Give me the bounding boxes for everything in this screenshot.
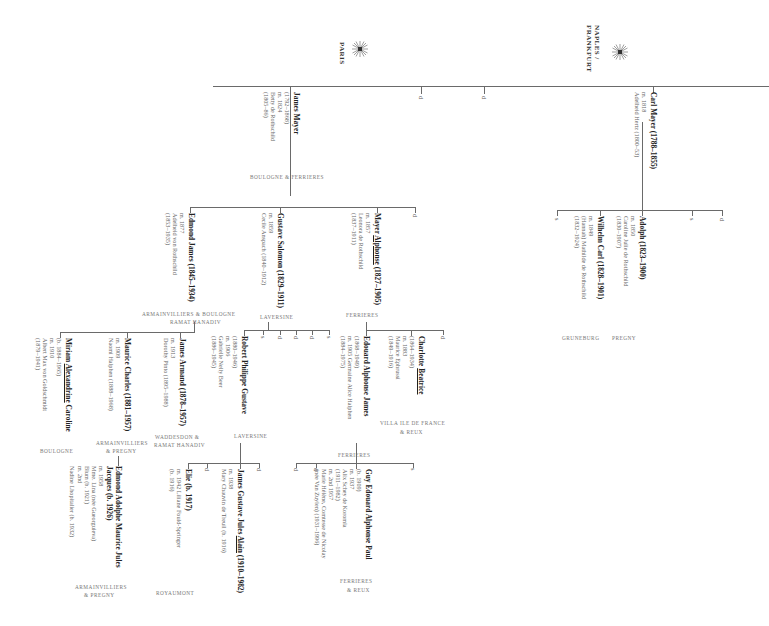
place-armainvilliers-boulogne: ARMAINVILLIERS & BOULOGNE xyxy=(142,311,235,317)
tick xyxy=(329,330,330,335)
person-james-mayer: James Mayer (1792–1868) m. 1824 Betty de… xyxy=(263,92,300,141)
generation-line xyxy=(366,330,444,331)
place-pregny: & PREGNY xyxy=(106,448,137,454)
person-edouard: Edouard Alphonse James (1868–1949) m. 19… xyxy=(340,336,370,419)
tick xyxy=(280,330,281,335)
person-mayer-alphonse: Mayer Alphonse (1827–1905) m. 1857 Leono… xyxy=(351,213,381,305)
tick xyxy=(557,210,558,216)
person-adolph: Adolph (1823–1900) m. 1850 Caroline Juli… xyxy=(616,216,646,286)
person-wilhelm: Wilhelm Carl (1828–1901) m. 1849 (Hannah… xyxy=(574,216,604,299)
generation-line xyxy=(244,330,330,331)
tick xyxy=(484,86,485,94)
place-laversine: LAVERSINE xyxy=(234,433,267,439)
sunburst-crest-icon xyxy=(612,44,628,60)
deceased-mark: d xyxy=(412,214,419,217)
son-mark: s xyxy=(326,336,333,339)
person-robert: Robert Philippe Gustave (1880–1946) m. 1… xyxy=(211,336,248,414)
tick xyxy=(722,210,723,216)
place-reux: & REUX xyxy=(400,429,423,435)
place-pregny: PREGNY xyxy=(612,335,636,341)
place-boulogne: BOULOGNE xyxy=(40,448,73,454)
person-alain: James Gustave Jules Alain (1910–1982) m.… xyxy=(221,469,244,593)
deceased-mark: d xyxy=(440,336,447,339)
deceased-mark: d xyxy=(309,336,316,339)
place-royaumont: ROYAUMONT xyxy=(156,590,194,596)
person-gustave-salomon: Gustave Salomon (1829–1911) m. 1859 Ceci… xyxy=(261,213,284,308)
son-mark: s xyxy=(554,218,561,221)
tick xyxy=(443,330,444,335)
son-mark: s xyxy=(260,336,267,339)
branch-city-paris: PARIS xyxy=(338,42,346,64)
person-guy: Guy Edouard Alphonse Paul (b. 1909) m. 1… xyxy=(314,469,372,560)
deceased-mark: d xyxy=(293,336,300,339)
person-elie: Elie (b. 1917) m. 1942 Liliane Fould-Spr… xyxy=(169,469,192,548)
place-ferrieres: FERRIERES xyxy=(340,578,372,584)
tick xyxy=(415,207,416,213)
tick xyxy=(692,210,693,216)
son-mark: s xyxy=(410,468,417,471)
place-villa-ile-de-france: VILLA ILE DE FRANCE xyxy=(380,420,445,426)
tick xyxy=(421,86,422,94)
connector xyxy=(194,322,195,332)
person-miriam: Miriam Alexandrine Caroline (b. 1884–196… xyxy=(35,338,72,432)
sunburst-crest-icon xyxy=(352,41,368,57)
place-waddesdon: WADDESDON & xyxy=(155,434,200,440)
tick xyxy=(312,330,313,335)
place-laversine: LAVERSINE xyxy=(260,314,293,320)
tick xyxy=(296,330,297,335)
connector xyxy=(240,443,241,463)
generation-line xyxy=(557,210,723,211)
generation-line xyxy=(190,207,416,208)
place-gruneburg: GRUNEBURG xyxy=(562,335,599,341)
connector xyxy=(268,322,269,330)
place-ramat-hanadiv: RAMAT HANADIV xyxy=(170,319,221,325)
connector xyxy=(118,456,119,466)
deceased-mark: d xyxy=(277,336,284,339)
place-armainvilliers: ARMAINVILLIERS xyxy=(75,584,127,590)
place-ferrieres: FERRIERES xyxy=(346,312,378,318)
generation-line xyxy=(296,463,414,464)
deceased-mark: d xyxy=(719,218,726,221)
son-mark: s xyxy=(689,218,696,221)
person-james-armand: James Armand (1878–1957) m. 1913 Dorothy… xyxy=(163,338,186,426)
generation-line-top xyxy=(213,86,769,87)
connector xyxy=(366,322,367,330)
place-ferrieres: FERRIERES xyxy=(338,452,370,458)
deceased-mark: d xyxy=(204,468,211,471)
deceased-mark: d xyxy=(481,96,488,99)
tick xyxy=(263,330,264,335)
generation-line xyxy=(188,463,260,464)
person-maurice-charles: Maurice Charles (1881–1957) m. 1909 Naom… xyxy=(108,338,131,431)
person-edmond-james: Edmond James (1845–1934) m. 1877 Adelhei… xyxy=(165,213,195,302)
place-pregny: & PREGNY xyxy=(84,592,115,598)
place-ramat-hanadiv: RAMAT HANADIV xyxy=(154,442,205,448)
person-edmond-adolphe: Edmond Adolphe Maurice Jules Jacques (b.… xyxy=(69,466,122,568)
place-armainvilliers: ARMAINVILLIERS xyxy=(96,440,148,446)
place-boulogne-ferrieres: BOULOGNE & FERRIERES xyxy=(250,174,324,180)
place-reux: & REUX xyxy=(347,587,370,593)
deceased-mark: d xyxy=(293,468,300,471)
person-charlotte: Charlotte Beatrice (1864–1934) m. 1883 M… xyxy=(388,336,425,395)
deceased-mark: d xyxy=(256,468,263,471)
branch-city-naples: NAPLES / FRANKFURT xyxy=(584,25,601,72)
person-carl: Carl Mayer (1788–1855) m. 1818 Adelheid … xyxy=(634,92,657,169)
connector xyxy=(642,122,643,210)
connector xyxy=(356,443,357,463)
deceased-mark: d xyxy=(418,96,425,99)
